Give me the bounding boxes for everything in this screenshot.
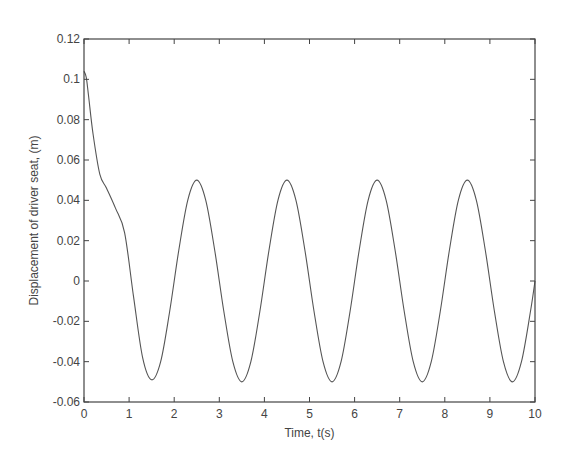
x-tick-label: 8 [441,407,448,421]
x-tick-label: 3 [216,407,223,421]
plot-area [84,39,535,402]
y-tick-label: 0.02 [57,234,81,248]
y-tick-label: 0.06 [57,153,81,167]
y-tick-label: -0.04 [53,355,81,369]
x-tick-label: 4 [261,407,268,421]
y-tick-label: 0.12 [57,32,81,46]
y-tick-label: 0.04 [57,193,81,207]
x-tick-label: 1 [126,407,133,421]
x-axis-label: Time, t(s) [284,426,334,440]
x-tick-label: 7 [396,407,403,421]
y-tick-label: 0.08 [57,113,81,127]
x-tick-label: 2 [171,407,178,421]
y-tick-label: 0.1 [63,72,80,86]
x-tick-label: 10 [528,407,542,421]
x-tick-label: 9 [487,407,494,421]
y-tick-label: 0 [73,274,80,288]
x-tick-label: 5 [306,407,313,421]
y-tick-label: -0.06 [53,395,81,409]
line-chart: 012345678910 -0.06-0.04-0.0200.020.040.0… [0,0,562,461]
y-tick-label: -0.02 [53,314,81,328]
x-tick-label: 0 [81,407,88,421]
x-tick-label: 6 [351,407,358,421]
y-axis-label: Displacement of driver seat, (m) [27,135,41,305]
